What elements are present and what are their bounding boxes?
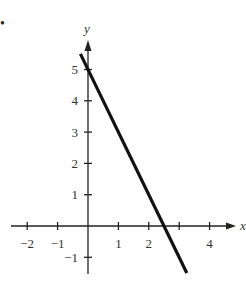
tick-labels: −2−1124−112345 <box>20 62 213 265</box>
data-line <box>80 54 186 273</box>
line-chart: xy −2−1124−112345 <box>0 0 246 292</box>
ticks <box>27 70 209 258</box>
y-axis-arrow-icon <box>85 40 92 51</box>
x-tick-label: 2 <box>146 236 153 251</box>
x-tick-label: 1 <box>115 236 122 251</box>
x-axis-label: x <box>239 218 246 233</box>
y-tick-label: −1 <box>64 250 78 265</box>
plot-area <box>80 54 186 273</box>
y-tick-label: 3 <box>72 125 79 140</box>
y-tick-label: 4 <box>72 93 79 108</box>
y-tick-label: 2 <box>72 156 79 171</box>
x-tick-label: −2 <box>20 236 34 251</box>
x-tick-label: −1 <box>51 236 65 251</box>
y-tick-label: 5 <box>72 62 79 77</box>
x-tick-label: 4 <box>206 236 213 251</box>
y-tick-label: 1 <box>72 187 79 202</box>
y-axis-label: y <box>82 21 90 36</box>
x-axis-arrow-icon <box>226 223 236 230</box>
